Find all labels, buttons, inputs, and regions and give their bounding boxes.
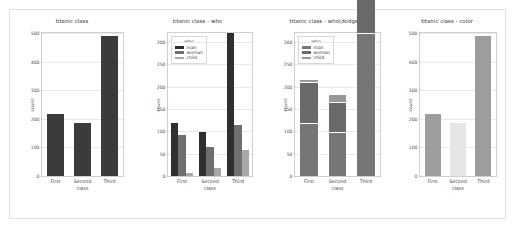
bar-Third-man [227, 33, 234, 176]
bar-First [425, 114, 441, 176]
bar-First-man [300, 123, 318, 176]
legend-item-man: man [302, 46, 330, 50]
y-axis-label: count [30, 98, 35, 111]
gridline [42, 33, 123, 34]
legend-swatch-icon [302, 46, 311, 49]
y-tick-mark [167, 41, 169, 42]
x-tick-label: Third [360, 179, 372, 184]
y-tick-mark [294, 108, 296, 109]
x-tick-label: Second [74, 179, 92, 184]
bar-First-woman [178, 135, 185, 176]
legend: who manwomanchild [298, 36, 334, 64]
y-tick-label: 100 [157, 129, 166, 134]
chart-title: titanic class - color [389, 18, 505, 24]
chart-title: titanic class [10, 18, 134, 24]
legend-item-woman: woman [175, 51, 203, 55]
y-tick-mark [419, 90, 421, 91]
y-tick-mark [167, 108, 169, 109]
bar-Second-man [199, 132, 206, 176]
y-tick-mark [294, 86, 296, 87]
chart-title: titanic class - who [134, 18, 261, 24]
y-tick-mark [167, 86, 169, 87]
legend-item-woman: woman [302, 51, 330, 55]
bar-Second-man [329, 132, 347, 176]
y-tick-mark [41, 176, 43, 177]
gridline [168, 109, 252, 110]
gridline [420, 33, 496, 34]
plot-axes: count class 0100200300400500FirstSecondT… [419, 32, 497, 177]
y-tick-label: 0 [37, 174, 40, 179]
legend-item-label: child [314, 55, 325, 60]
y-tick-label: 500 [31, 31, 40, 36]
legend-item-man: man [175, 46, 203, 50]
y-tick-label: 50 [287, 151, 293, 156]
x-tick-label: First [428, 179, 438, 184]
bar-Second-child [214, 168, 221, 176]
bar-Second-woman [206, 147, 213, 176]
y-tick-label: 250 [157, 62, 166, 67]
x-tick-label: Second [329, 179, 347, 184]
x-axis-label: class [295, 186, 380, 191]
x-axis-label: class [168, 186, 252, 191]
y-tick-label: 300 [409, 88, 418, 93]
y-tick-label: 300 [284, 39, 293, 44]
y-tick-mark [294, 131, 296, 132]
y-tick-mark [294, 64, 296, 65]
y-tick-mark [419, 33, 421, 34]
chart-panel-titanic-class-who-dodge: titanic class - who(dodge) count class w… [261, 10, 389, 218]
x-tick-label: Second [449, 179, 467, 184]
screenshot-root: titanic class count class 01002003004005… [0, 0, 515, 228]
y-tick-label: 100 [31, 145, 40, 150]
y-tick-mark [294, 41, 296, 42]
x-tick-label: Third [477, 179, 489, 184]
legend: who manwomanchild [171, 36, 207, 64]
bar-First-man [171, 123, 178, 176]
y-tick-mark [419, 176, 421, 177]
y-tick-label: 300 [31, 88, 40, 93]
bar-Second-child [329, 94, 347, 102]
y-tick-mark [167, 153, 169, 154]
x-axis-label: class [42, 186, 123, 191]
y-tick-label: 150 [284, 106, 293, 111]
x-tick-label: Second [201, 179, 219, 184]
y-tick-mark [41, 61, 43, 62]
y-tick-mark [419, 61, 421, 62]
y-tick-label: 0 [290, 174, 293, 179]
bar-Second [450, 123, 466, 176]
y-tick-mark [41, 33, 43, 34]
legend-item-label: child [187, 55, 198, 60]
y-tick-label: 200 [157, 84, 166, 89]
bar-Third [101, 36, 118, 176]
y-tick-label: 200 [31, 116, 40, 121]
y-tick-label: 150 [157, 106, 166, 111]
y-axis-label: count [408, 98, 413, 111]
legend-item-child: child [175, 56, 203, 60]
bar-Third-man [357, 33, 375, 176]
y-tick-mark [167, 131, 169, 132]
bar-First-woman [300, 82, 318, 123]
legend-swatch-icon [302, 57, 311, 60]
y-tick-mark [294, 176, 296, 177]
y-tick-mark [167, 64, 169, 65]
bar-Third-woman [357, 0, 375, 33]
y-tick-label: 100 [409, 145, 418, 150]
x-tick-label: First [304, 179, 314, 184]
legend-swatch-icon [175, 57, 184, 60]
y-tick-mark [41, 90, 43, 91]
y-tick-label: 200 [284, 84, 293, 89]
gridline [168, 64, 252, 65]
chart-panel-titanic-class-who: titanic class - who count class who manw… [134, 10, 261, 218]
y-tick-label: 50 [160, 151, 166, 156]
chart-panel-titanic-class-color: titanic class - color count class 010020… [389, 10, 505, 218]
y-tick-label: 100 [284, 129, 293, 134]
y-tick-label: 400 [409, 59, 418, 64]
legend-swatch-icon [302, 51, 311, 54]
legend-item-child: child [302, 56, 330, 60]
bar-Third-child [242, 150, 249, 176]
y-tick-mark [41, 118, 43, 119]
y-tick-label: 250 [284, 62, 293, 67]
x-tick-label: First [50, 179, 60, 184]
bar-First-child [300, 79, 318, 82]
y-tick-label: 400 [31, 59, 40, 64]
y-tick-mark [41, 147, 43, 148]
